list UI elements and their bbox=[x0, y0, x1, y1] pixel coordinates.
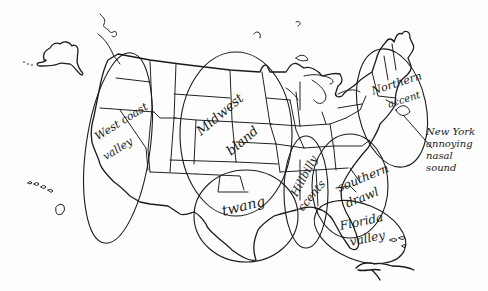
puget-sound bbox=[100, 14, 117, 37]
dialect-map: West coast valley Midwest bland Northern… bbox=[0, 0, 488, 291]
midwest-ring bbox=[180, 52, 292, 216]
new-york-annotation: New York annoying nasal sound bbox=[426, 126, 475, 174]
annotation-line-1: New York bbox=[426, 126, 475, 138]
great-lakes bbox=[254, 21, 360, 94]
annotation-line-2: annoying bbox=[426, 138, 475, 150]
annotation-line-3: nasal bbox=[426, 150, 475, 162]
alaska-shape bbox=[23, 42, 83, 75]
hawaii-shape bbox=[28, 182, 65, 215]
texas-ring bbox=[194, 170, 298, 262]
annotation-line-4: sound bbox=[426, 162, 475, 174]
